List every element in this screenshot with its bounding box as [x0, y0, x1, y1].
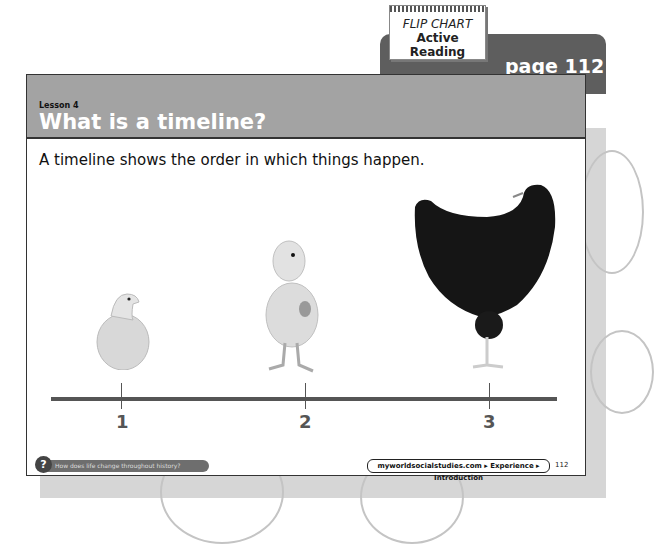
flip-chart-rings — [390, 6, 485, 12]
egg-chick-image — [93, 280, 153, 370]
website-link[interactable]: myworldsocialstudies.com ▸ Experience ▸ … — [367, 459, 550, 473]
flip-chart-card: FLIP CHART Active Reading — [389, 5, 486, 60]
young-chick-image — [257, 235, 327, 375]
question-icon: ? — [35, 456, 52, 473]
lesson-frame: Lesson 4 What is a timeline? A timeline … — [26, 74, 586, 476]
timeline-tick — [305, 383, 306, 409]
timeline-tick — [489, 383, 490, 409]
lesson-number: Lesson 4 — [39, 101, 79, 110]
timeline-label-2: 2 — [299, 411, 312, 432]
timeline-label-1: 1 — [116, 411, 129, 432]
timeline-tick — [121, 383, 122, 409]
background-swirl — [590, 330, 654, 414]
background-swirl — [580, 150, 644, 274]
essential-question: How does life change throughout history? — [39, 460, 209, 472]
hen-image — [407, 177, 567, 372]
flip-chart-title: FLIP CHART — [390, 17, 485, 31]
page-number: 112 — [555, 461, 568, 469]
intro-text: A timeline shows the order in which thin… — [39, 151, 425, 169]
flip-chart-subtitle: Active Reading — [390, 31, 485, 59]
timeline-axis — [51, 397, 557, 401]
lesson-title: What is a timeline? — [39, 110, 266, 134]
timeline-label-3: 3 — [483, 411, 496, 432]
lesson-header: Lesson 4 What is a timeline? — [27, 75, 585, 139]
